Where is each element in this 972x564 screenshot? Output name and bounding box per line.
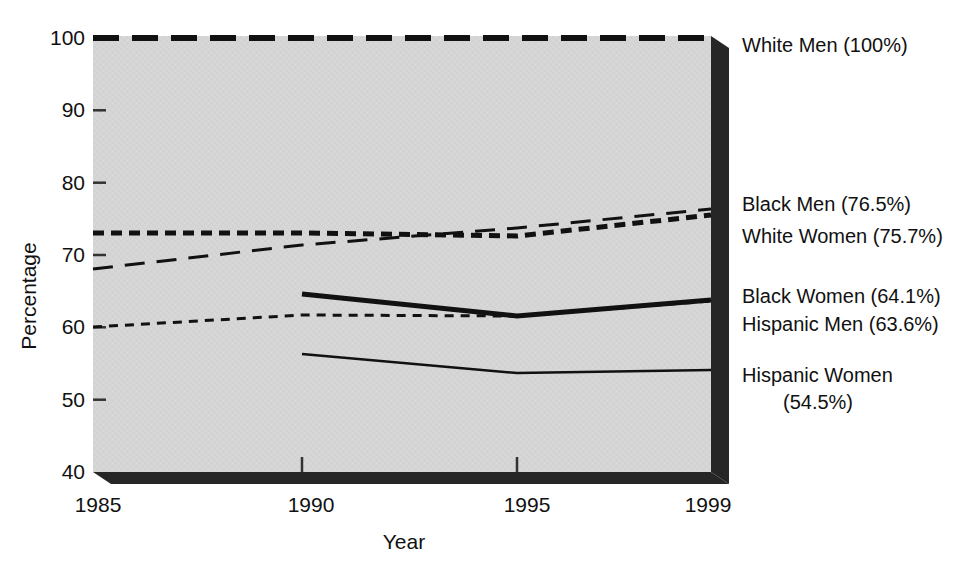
chart-figure: 100 90 80 70 60 50 40 1985 1990 1995 199…	[0, 0, 972, 564]
series-label-white-women: White Women (75.7%)	[742, 225, 943, 247]
series-label-white-men: White Men (100%)	[742, 34, 908, 56]
y-tick-label-60: 60	[62, 315, 85, 338]
x-tick-label-1990: 1990	[288, 493, 335, 516]
line-chart: 100 90 80 70 60 50 40 1985 1990 1995 199…	[0, 0, 972, 564]
y-tick-label-100: 100	[50, 26, 85, 49]
series-label-hispanic-women-line2: (54.5%)	[783, 391, 853, 413]
plot-area-background	[93, 36, 711, 472]
y-axis-title: Percentage	[17, 242, 40, 349]
x-tick-label-1995: 1995	[504, 493, 551, 516]
y-tick-label-50: 50	[62, 388, 85, 411]
y-tick-label-90: 90	[62, 98, 85, 121]
series-label-hispanic-men: Hispanic Men (63.6%)	[742, 313, 939, 335]
x-axis-title: Year	[383, 530, 425, 553]
y-tick-label-40: 40	[62, 460, 85, 483]
x-tick-label-1985: 1985	[75, 493, 122, 516]
series-label-black-women: Black Women (64.1%)	[742, 285, 941, 307]
y-tick-label-70: 70	[62, 243, 85, 266]
series-label-black-men: Black Men (76.5%)	[742, 193, 911, 215]
x-tick-label-1999: 1999	[685, 493, 732, 516]
y-tick-label-80: 80	[62, 171, 85, 194]
series-label-hispanic-women-line1: Hispanic Women	[742, 364, 893, 386]
